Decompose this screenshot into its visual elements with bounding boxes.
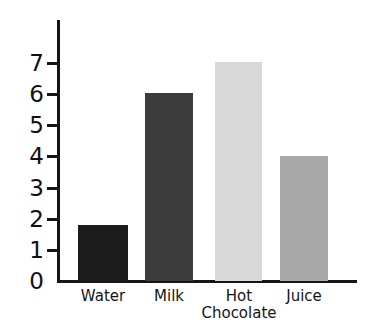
- bar-hot-chocolate: [215, 62, 262, 281]
- y-tick-mark-3: [47, 187, 58, 190]
- bar-chart: 7 6 5 4 3 2 1 0 Water Milk Hot Chocolate…: [0, 0, 374, 334]
- y-tick-mark-2: [47, 218, 58, 221]
- y-tick-mark-7: [47, 62, 58, 65]
- y-tick-label-0: 0: [4, 270, 44, 293]
- y-tick-label-1: 1: [4, 239, 44, 262]
- y-tick-mark-4: [47, 155, 58, 158]
- bar-milk: [145, 93, 193, 281]
- y-tick-mark-1: [47, 249, 58, 252]
- y-axis-line: [57, 20, 60, 282]
- y-tick-label-5: 5: [4, 114, 44, 137]
- y-tick-mark-5: [47, 124, 58, 127]
- y-tick-label-4: 4: [4, 145, 44, 168]
- y-tick-mark-6: [47, 93, 58, 96]
- y-tick-label-7: 7: [4, 52, 44, 75]
- plot-area: 7 6 5 4 3 2 1 0 Water Milk Hot Chocolate…: [0, 0, 374, 334]
- y-tick-label-3: 3: [4, 177, 44, 200]
- x-label-water: Water: [73, 288, 133, 305]
- x-label-juice: Juice: [274, 288, 334, 305]
- bar-juice: [280, 156, 328, 281]
- bar-water: [78, 225, 128, 281]
- x-label-hot-chocolate: Hot Chocolate: [193, 288, 285, 322]
- x-label-milk: Milk: [139, 288, 199, 305]
- y-tick-label-6: 6: [4, 83, 44, 106]
- y-tick-label-2: 2: [4, 208, 44, 231]
